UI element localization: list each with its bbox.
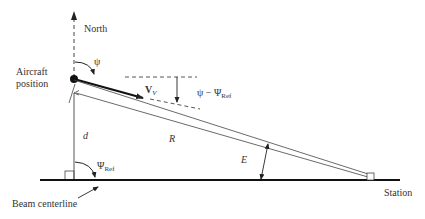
heading-error-label: ψ − ΨRef (197, 87, 231, 102)
range-line-lower (76, 93, 368, 177)
R-label: R (169, 133, 175, 144)
psi-arc-arrow (75, 62, 94, 74)
elevation-arrow (261, 144, 268, 179)
geometry-diagram (0, 0, 425, 219)
station-label: Station (384, 187, 412, 198)
north-label: North (84, 23, 107, 34)
beam-centerline-label: Beam centerline (12, 198, 77, 209)
station-box (367, 173, 374, 180)
psi-ref-label: ΨRef (97, 160, 115, 175)
velocity-extension-dashed-line (150, 99, 200, 109)
velocity-label: VV (145, 84, 157, 99)
psi-ref-arc-arrow (75, 162, 95, 177)
north-axis (71, 11, 77, 78)
psi-label: ψ (94, 56, 100, 67)
aircraft-position-label-line1: Aircraft (16, 66, 48, 77)
north-arrow-icon (71, 11, 77, 20)
beam-centerline-pointer (78, 187, 98, 198)
E-label: E (241, 154, 247, 165)
right-angle-box (65, 171, 74, 180)
aircraft-position-label-line2: position (16, 78, 48, 89)
d-label: d (83, 130, 88, 141)
